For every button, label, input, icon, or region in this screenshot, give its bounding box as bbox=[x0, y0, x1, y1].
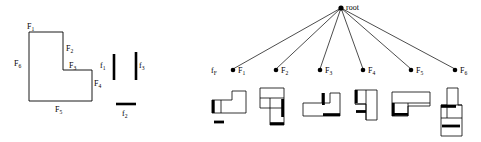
edge-label-f5: F5 bbox=[55, 105, 62, 115]
edge-label-f3: F3 bbox=[69, 61, 76, 71]
tree-edge-root-f1 bbox=[233, 8, 341, 69]
edge-label-f4: F4 bbox=[94, 79, 101, 89]
hypothesis-shape-5 bbox=[392, 92, 430, 116]
hypothesis-shape-4 bbox=[355, 90, 377, 120]
edge-label-f2: F2 bbox=[66, 44, 73, 54]
hypothesis-shape-3 bbox=[303, 93, 340, 116]
tree-root-label: root bbox=[346, 3, 360, 12]
hypothesis-shape-6 bbox=[441, 88, 462, 136]
feature-label-f3: f3 bbox=[139, 61, 145, 71]
tree-edge-root-f6 bbox=[341, 8, 455, 69]
figure-canvas: F1 F2 F3 F4 F5 F6 f1 bbox=[0, 0, 481, 142]
feature-segments-group: f1 f3 f2 bbox=[100, 52, 145, 119]
tree-node-f2[interactable] bbox=[274, 68, 279, 73]
edge-label-f6: F6 bbox=[14, 59, 21, 69]
model-polygon-outline bbox=[29, 32, 92, 101]
feature-label-f2: f2 bbox=[122, 109, 128, 119]
tree-edge-root-f5 bbox=[341, 8, 411, 69]
tree-node-f5[interactable] bbox=[409, 68, 414, 73]
tree-node-label-f3: F3 bbox=[325, 66, 332, 76]
tree-node-label-f2: F2 bbox=[281, 66, 288, 76]
hypothesis-shape-1 bbox=[212, 91, 246, 122]
interpretation-tree-group: root fF F1 F2 F3 bbox=[211, 3, 467, 137]
tree-node-label-f4: F4 bbox=[368, 66, 375, 76]
tree-node-f6[interactable] bbox=[453, 68, 458, 73]
tree-node-f3[interactable] bbox=[318, 68, 323, 73]
tree-level-label: fF bbox=[211, 66, 217, 76]
figure-container: F1 F2 F3 F4 F5 F6 f1 bbox=[0, 0, 481, 142]
tree-node-f4[interactable] bbox=[361, 68, 366, 73]
hypothesis-shape-2 bbox=[260, 88, 284, 125]
model-polygon-group: F1 F2 F3 F4 F5 F6 bbox=[14, 22, 101, 115]
tree-node-label-f6: F6 bbox=[460, 66, 467, 76]
tree-node-f1[interactable] bbox=[231, 68, 236, 73]
tree-node-label-f1: F1 bbox=[238, 66, 245, 76]
edge-label-f1: F1 bbox=[27, 22, 34, 32]
tree-edge-root-f3 bbox=[320, 8, 341, 69]
tree-edge-root-f2 bbox=[276, 8, 341, 69]
feature-label-f1: f1 bbox=[100, 61, 106, 71]
tree-node-label-f5: F5 bbox=[416, 66, 423, 76]
